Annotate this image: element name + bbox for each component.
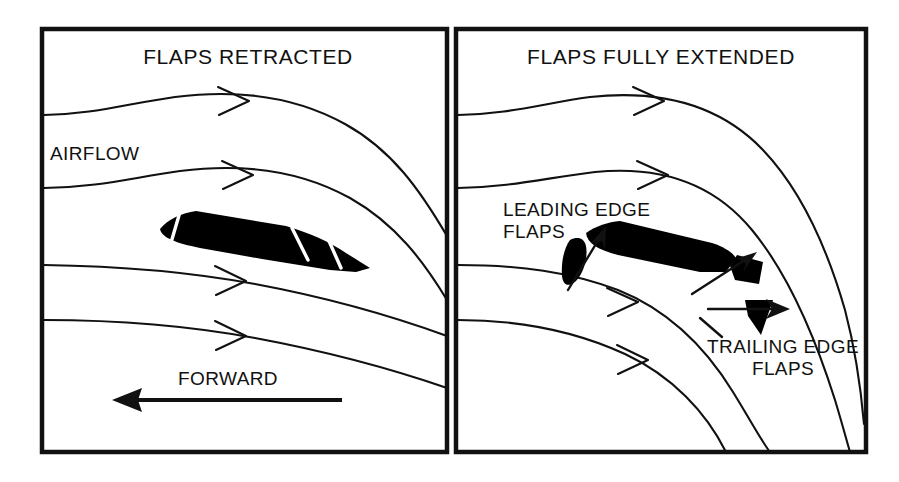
flaps-diagram: FLAPS RETRACTED AIRFLOW FORWARD <box>0 0 899 482</box>
trailing-edge-flaps-label-line1: TRAILING EDGE <box>707 336 859 357</box>
panel-flaps-retracted: FLAPS RETRACTED AIRFLOW FORWARD <box>42 29 447 452</box>
leading-edge-flaps-label-line1: LEADING EDGE <box>503 199 650 220</box>
trailing-edge-flaps-label-line2: FLAPS <box>752 358 814 379</box>
panel-flaps-extended: FLAPS FULLY EXTENDED LEADING EDGE <box>456 29 866 452</box>
panel-title-left: FLAPS RETRACTED <box>143 45 353 68</box>
airflow-label: AIRFLOW <box>50 143 139 164</box>
forward-label: FORWARD <box>178 368 278 389</box>
panel-title-right: FLAPS FULLY EXTENDED <box>527 45 795 68</box>
leading-edge-flaps-label-line2: FLAPS <box>503 221 565 242</box>
